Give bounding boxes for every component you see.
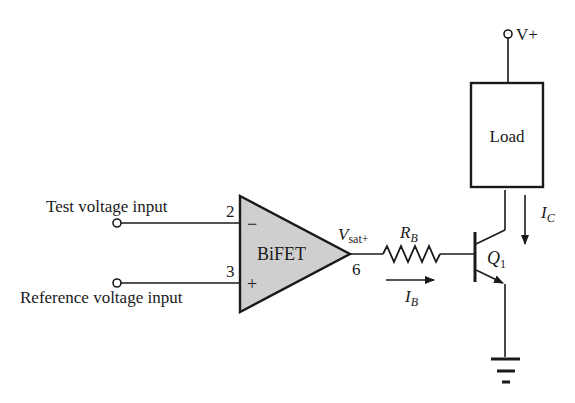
ib-label: IB xyxy=(404,287,419,309)
reference-input-terminal xyxy=(113,279,239,287)
pin-6-label: 6 xyxy=(352,260,361,279)
transistor-q1 xyxy=(475,190,505,357)
supply-label: V+ xyxy=(516,25,538,44)
circuit-diagram: Test voltage input Reference voltage inp… xyxy=(0,0,575,403)
reference-input-label: Reference voltage input xyxy=(20,288,183,307)
pin-3-label: 3 xyxy=(226,262,235,281)
q1-label: Q1 xyxy=(487,248,506,271)
ground-icon xyxy=(491,359,520,382)
opamp-label: BiFET xyxy=(257,244,306,264)
supply-terminal xyxy=(504,30,512,83)
ic-label: IC xyxy=(540,203,556,225)
rb-label: RB xyxy=(399,223,418,245)
test-input-label: Test voltage input xyxy=(46,197,168,216)
noninverting-input-sign: + xyxy=(247,274,257,294)
resistor-rb xyxy=(383,246,440,262)
test-input-terminal xyxy=(113,219,239,227)
pin-2-label: 2 xyxy=(226,202,235,221)
vsat-label: Vsat+ xyxy=(338,225,369,246)
load-label: Load xyxy=(490,127,525,146)
inverting-input-sign: − xyxy=(247,214,257,234)
